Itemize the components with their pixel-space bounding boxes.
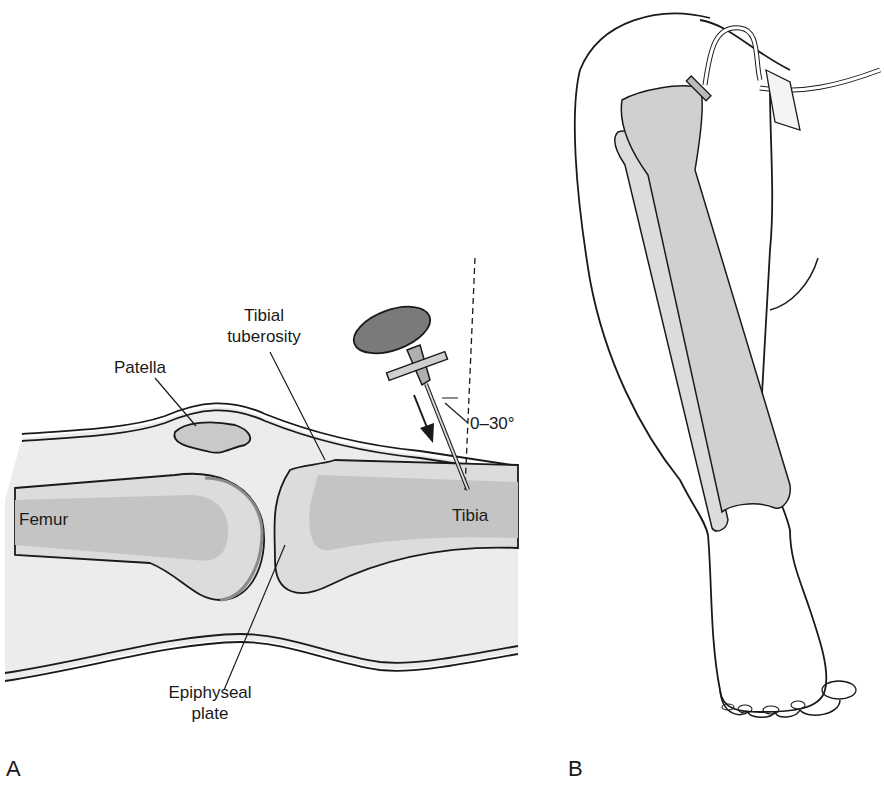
label-tibial-tuberosity-line2: tuberosity bbox=[214, 327, 314, 346]
label-angle: 0–30° bbox=[470, 414, 515, 433]
figure: Patella Tibial tuberosity 0–30° Femur Ti… bbox=[0, 0, 884, 789]
panel-b-drawing bbox=[575, 14, 880, 718]
label-patella: Patella bbox=[114, 358, 166, 377]
panel-letter-b: B bbox=[568, 756, 583, 782]
panel-letter-a: A bbox=[6, 756, 21, 782]
label-femur: Femur bbox=[19, 510, 68, 529]
label-epiphyseal-line1: Epiphyseal bbox=[160, 683, 260, 702]
label-tibial-tuberosity-line1: Tibial bbox=[214, 306, 314, 325]
illustration bbox=[0, 0, 884, 789]
label-tibia: Tibia bbox=[452, 506, 488, 525]
label-epiphyseal-line2: plate bbox=[160, 704, 260, 723]
